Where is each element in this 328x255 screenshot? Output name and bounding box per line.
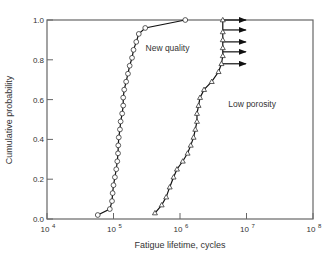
circle-marker: [120, 111, 125, 116]
x-tick-exponent: 7: [252, 223, 256, 229]
triangle-marker: [185, 151, 190, 155]
x-tick-label: 10: [174, 225, 183, 234]
circle-marker: [110, 199, 115, 204]
circle-marker: [107, 207, 112, 212]
circle-marker: [121, 103, 126, 108]
triangle-marker: [191, 135, 196, 139]
x-tick-exponent: 4: [52, 223, 56, 229]
y-tick-label: 0.4: [33, 135, 45, 144]
series-annotation: New quality: [146, 43, 191, 53]
y-tick-label: 0.6: [33, 96, 45, 105]
triangle-marker: [188, 143, 193, 147]
y-tick-label: 0.8: [33, 56, 45, 65]
circle-marker: [134, 39, 139, 44]
circle-marker: [95, 213, 100, 218]
circle-marker: [131, 47, 136, 52]
triangle-marker: [196, 103, 201, 107]
circle-marker: [116, 135, 121, 140]
circle-marker: [122, 87, 127, 92]
circle-marker: [118, 127, 123, 132]
triangle-marker: [216, 69, 221, 73]
x-tick-exponent: 8: [318, 223, 322, 229]
triangle-marker: [167, 185, 172, 189]
triangle-marker: [164, 195, 169, 199]
circle-marker: [110, 191, 115, 196]
circle-marker: [121, 95, 126, 100]
triangle-marker: [171, 175, 176, 179]
y-tick-label: 0.2: [33, 175, 45, 184]
x-axis-label: Fatigue lifetime, cycles: [134, 240, 226, 250]
x-tick-exponent: 6: [185, 223, 189, 229]
x-tick-exponent: 5: [119, 223, 123, 229]
circle-marker: [124, 79, 129, 84]
circle-marker: [183, 18, 188, 23]
circle-marker: [115, 159, 120, 164]
triangle-marker: [220, 53, 225, 57]
circle-marker: [116, 151, 121, 156]
circle-marker: [114, 167, 119, 172]
circle-marker: [111, 183, 116, 188]
circle-marker: [113, 175, 118, 180]
x-tick-label: 10: [107, 225, 116, 234]
x-tick-label: 10: [307, 225, 316, 234]
circle-marker: [126, 71, 131, 76]
x-tick-label: 10: [41, 225, 50, 234]
triangle-marker: [220, 37, 225, 41]
triangle-marker: [198, 95, 203, 99]
triangle-marker: [193, 127, 198, 131]
circle-marker: [143, 26, 148, 31]
y-tick-label: 1.0: [33, 16, 45, 25]
annotations-layer: New qualityLow porosity: [146, 43, 277, 109]
triangle-marker: [220, 45, 225, 49]
series-annotation: Low porosity: [228, 99, 276, 109]
circle-marker: [130, 55, 135, 60]
circle-marker: [136, 32, 141, 37]
triangle-marker: [194, 111, 199, 115]
chart: 0.00.20.40.60.81.0104105106107108 New qu…: [0, 0, 328, 255]
y-tick-label: 0.0: [33, 215, 45, 224]
triangle-marker: [194, 119, 199, 123]
y-axis-label: Cumulative probability: [4, 75, 14, 164]
circle-marker: [116, 143, 121, 148]
circle-marker: [127, 63, 132, 68]
x-tick-label: 10: [240, 225, 249, 234]
circle-marker: [118, 119, 123, 124]
